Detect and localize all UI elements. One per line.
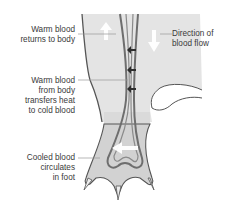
label-warm-return: Warm blood returns to body [0, 25, 75, 45]
heat-exchange-diagram: Warm blood returns to body Warm blood fr… [0, 0, 234, 207]
label-direction: Direction of blood flow [172, 29, 213, 49]
feather-notch [151, 84, 202, 110]
claw-middle [116, 186, 121, 200]
label-warm-transfer: Warm blood from body transfers heat to c… [0, 76, 75, 116]
label-cooled: Cooled blood circulates in foot [0, 153, 75, 183]
